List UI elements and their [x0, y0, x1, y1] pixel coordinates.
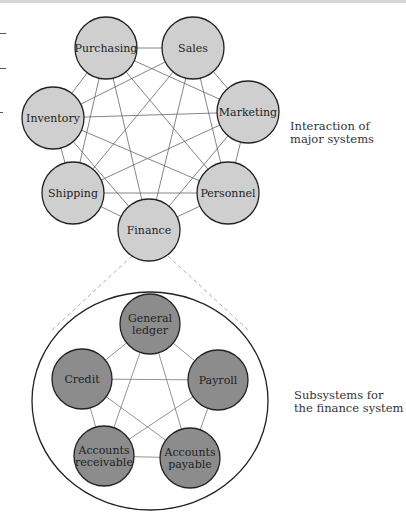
node-label: Shipping [48, 187, 98, 200]
node-label: payable [168, 458, 211, 471]
node-label: Payroll [199, 374, 238, 387]
caption-line: the finance system [294, 402, 403, 415]
node-label: Purchasing [75, 42, 138, 55]
caption-line: major systems [290, 133, 374, 146]
node-label: receivable [75, 456, 133, 469]
node-label: Inventory [26, 112, 81, 125]
systems-diagram: PurchasingSalesMarketingPersonnelFinance… [0, 0, 406, 525]
node-label: Sales [178, 42, 208, 55]
finance-subsystems-caption: Subsystems for the finance system [294, 389, 403, 415]
node-label: Finance [127, 224, 172, 237]
node-label: Credit [64, 373, 100, 386]
node-label: Personnel [200, 187, 256, 200]
node-label: ledger [132, 324, 169, 337]
major-systems-caption: Interaction of major systems [290, 120, 374, 146]
node-label: Marketing [219, 106, 277, 119]
